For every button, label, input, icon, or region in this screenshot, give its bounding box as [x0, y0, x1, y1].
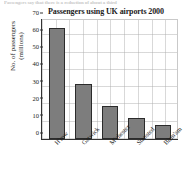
- y-axis-title: No. of passengers (millions): [9, 0, 25, 96]
- y-tick-label: 0: [36, 129, 39, 136]
- chart-figure: Passengers say that there is a reduction…: [0, 0, 185, 182]
- bar-slot: [150, 19, 176, 139]
- y-tick-label: 20: [33, 94, 40, 101]
- y-tick-label: 30: [33, 77, 40, 84]
- bar-slot: [70, 19, 96, 139]
- y-tick-label: 70: [33, 9, 40, 16]
- bar-slot: [123, 19, 149, 139]
- x-axis-ticks: H'rowGatwickM'chesterStanstedBirm'am: [41, 141, 178, 182]
- bar-h-row: [49, 28, 65, 139]
- y-tick-label: 40: [33, 60, 40, 67]
- bar-slot: [44, 19, 70, 139]
- bar-slot: [97, 19, 123, 139]
- y-tick-label: 60: [33, 26, 40, 33]
- chart-title: Passengers using UK airports 2000: [30, 7, 182, 16]
- clipped-header-text: Passengers say that there is a reduction…: [4, 0, 182, 6]
- plot-area: 010203040506070: [41, 19, 178, 140]
- y-axis-title-line1: No. of passengers: [9, 21, 17, 71]
- y-tick-label: 50: [33, 43, 40, 50]
- bar-series: [42, 19, 178, 139]
- y-tick-label: 10: [33, 111, 40, 118]
- y-axis-title-line2: (millions): [17, 0, 25, 96]
